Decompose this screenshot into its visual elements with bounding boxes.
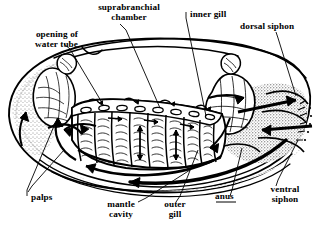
label-dorsal-siphon: dorsal siphon (240, 22, 294, 32)
anatomy-figure: opening of water tube suprabranchial cha… (0, 0, 318, 228)
label-anus: anus (215, 192, 234, 202)
label-ventral-siphon: ventral siphon (258, 185, 312, 204)
label-inner-gill: inner gill (190, 10, 226, 20)
label-outer-gill: outer gill (152, 200, 198, 219)
label-opening-of-water-tube: opening of water tube (6, 30, 78, 49)
label-mantle-cavity: mantle cavity (96, 200, 146, 219)
label-suprabranchial-chamber: suprabranchial chamber (84, 3, 174, 22)
gill-lamellae (72, 99, 226, 169)
label-palps: palps (31, 193, 52, 203)
